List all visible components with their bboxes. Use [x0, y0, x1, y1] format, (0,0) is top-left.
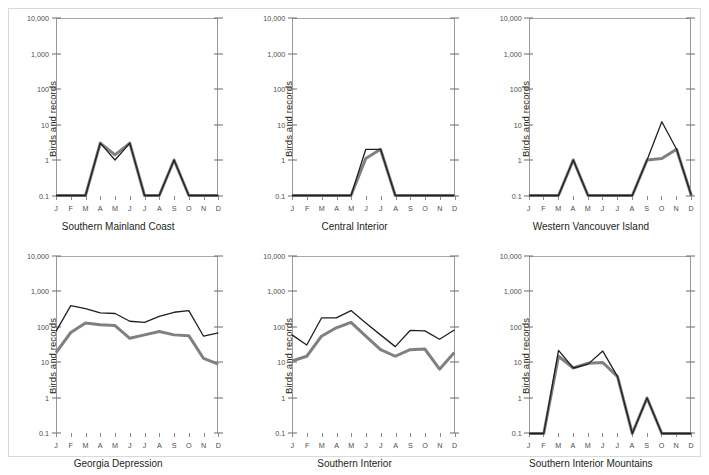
x-tick-mark — [661, 196, 662, 200]
series-line-birds — [529, 356, 691, 433]
x-tick-label-s-8: S — [408, 204, 413, 213]
y-tick-label: 10,000 — [263, 14, 285, 23]
chart-panel-4: Birds and records10,0001,0001001010.1JFM… — [0, 238, 236, 475]
x-tick-label-j-6: J — [615, 204, 619, 213]
x-tick-label-a-7: A — [393, 204, 398, 213]
panel-title: Southern Mainland Coast — [0, 221, 236, 232]
x-tick-label-j-0: J — [527, 204, 531, 213]
plot-area: 10,0001,0001001010.1JFMAMJJASOND — [529, 256, 691, 434]
x-tick-label-j-0: J — [54, 441, 58, 450]
x-tick-label-a-3: A — [571, 204, 576, 213]
y-tick-label: 10 — [41, 120, 49, 129]
x-tick-mark — [455, 433, 456, 437]
x-tick-label-f-1: F — [541, 204, 545, 213]
x-tick-label-j-0: J — [527, 441, 531, 450]
panel-inner: Birds and records10,0001,0001001010.1JFM… — [473, 0, 709, 238]
x-tick-label-d-11: D — [452, 204, 457, 213]
x-tick-label-a-7: A — [630, 441, 635, 450]
panel-title: Georgia Depression — [0, 458, 236, 469]
x-tick-label-m-4: M — [348, 441, 354, 450]
x-tick-label-m-4: M — [112, 441, 118, 450]
y-tick-label: 100 — [273, 322, 285, 331]
x-tick-label-m-4: M — [585, 204, 591, 213]
series-layer — [56, 256, 218, 434]
y-tick-label: 10 — [514, 120, 522, 129]
x-tick-label-s-8: S — [644, 441, 649, 450]
series-line-records — [56, 143, 218, 195]
y-tick-label: 0.1 — [512, 429, 522, 438]
series-layer — [292, 256, 454, 434]
y-tick-label: 100 — [273, 85, 285, 94]
x-tick-label-f-1: F — [69, 441, 73, 450]
y-tick-label: 1 — [281, 393, 285, 402]
x-tick-label-j-0: J — [54, 204, 58, 213]
x-tick-label-o-9: O — [659, 204, 665, 213]
figure-root: Birds and records10,0001,0001001010.1JFM… — [0, 0, 709, 475]
plot-area: 10,0001,0001001010.1JFMAMJJASOND — [292, 256, 454, 434]
y-tick-label: 0.1 — [39, 191, 49, 200]
x-tick-label-s-8: S — [172, 204, 177, 213]
series-line-records — [529, 122, 691, 196]
series-layer — [292, 18, 454, 196]
x-tick-label-j-6: J — [143, 204, 147, 213]
y-tick-label: 1,000 — [504, 49, 522, 58]
y-tick-label: 1 — [518, 393, 522, 402]
y-tick-label: 1 — [281, 156, 285, 165]
x-tick-label-f-1: F — [69, 204, 73, 213]
y-tick-label: 1 — [518, 156, 522, 165]
plot-area: 10,0001,0001001010.1JFMAMJJASOND — [56, 18, 218, 196]
x-tick-label-m-2: M — [83, 204, 89, 213]
panel-inner: Birds and records10,0001,0001001010.1JFM… — [473, 238, 709, 475]
x-tick-label-a-3: A — [98, 441, 103, 450]
y-tick-label: 0.1 — [275, 191, 285, 200]
x-tick-mark — [337, 433, 338, 437]
y-tick-label: 10,000 — [263, 251, 285, 260]
y-tick-label: 0.1 — [512, 191, 522, 200]
x-tick-label-a-3: A — [98, 204, 103, 213]
y-tick-label: 10,000 — [27, 251, 49, 260]
x-tick-mark — [100, 196, 101, 200]
y-tick-label: 10,000 — [500, 14, 522, 23]
x-tick-label-m-2: M — [83, 441, 89, 450]
x-tick-label-o-9: O — [422, 441, 428, 450]
x-tick-label-n-10: N — [201, 441, 206, 450]
x-tick-mark — [86, 433, 87, 437]
x-tick-label-j-5: J — [601, 441, 605, 450]
x-tick-label-o-9: O — [186, 441, 192, 450]
x-tick-label-a-7: A — [393, 441, 398, 450]
chart-panel-5: Birds and records10,0001,0001001010.1JFM… — [236, 238, 472, 475]
x-tick-label-m-2: M — [319, 204, 325, 213]
x-tick-label-n-10: N — [437, 204, 442, 213]
y-tick-label: 10 — [41, 358, 49, 367]
x-tick-label-a-7: A — [157, 441, 162, 450]
x-tick-mark — [292, 433, 293, 437]
x-tick-mark — [218, 433, 219, 437]
x-tick-mark — [647, 433, 648, 437]
x-tick-label-j-5: J — [128, 204, 132, 213]
x-tick-mark — [647, 196, 648, 200]
y-tick-label: 1,000 — [31, 49, 49, 58]
x-tick-mark — [573, 433, 574, 437]
x-tick-mark — [351, 433, 352, 437]
panel-inner: Birds and records10,0001,0001001010.1JFM… — [236, 238, 472, 475]
panel-title: Southern Interior Mountains — [473, 458, 709, 469]
x-tick-mark — [455, 196, 456, 200]
x-tick-mark — [218, 196, 219, 200]
x-tick-label-j-5: J — [364, 441, 368, 450]
x-tick-mark — [366, 196, 367, 200]
x-tick-mark — [691, 433, 692, 437]
x-tick-mark — [174, 433, 175, 437]
y-tick-label: 1,000 — [267, 287, 285, 296]
x-tick-mark — [145, 433, 146, 437]
series-line-records — [292, 149, 454, 195]
panel-inner: Birds and records10,0001,0001001010.1JFM… — [0, 0, 236, 238]
y-tick-label: 1,000 — [504, 287, 522, 296]
x-tick-label-m-4: M — [348, 204, 354, 213]
x-tick-label-s-8: S — [644, 204, 649, 213]
y-tick-label: 10 — [514, 358, 522, 367]
x-tick-mark — [189, 433, 190, 437]
x-tick-mark — [602, 433, 603, 437]
x-tick-label-m-2: M — [555, 441, 561, 450]
x-tick-label-j-6: J — [379, 441, 383, 450]
x-tick-mark — [204, 433, 205, 437]
